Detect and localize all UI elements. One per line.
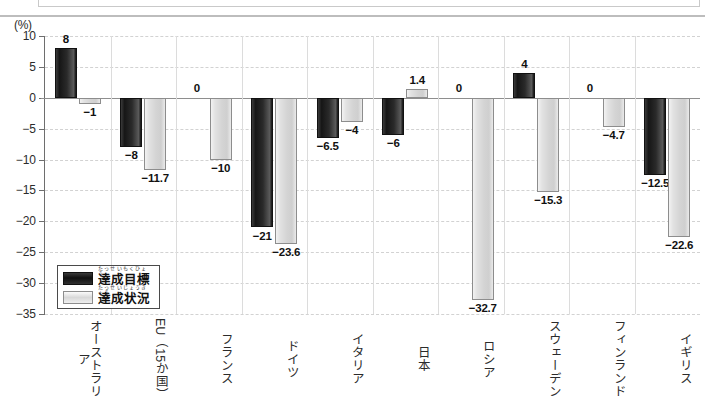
bar-value-label: −1 bbox=[64, 106, 116, 118]
category-separator bbox=[307, 36, 308, 314]
bar-value-label: −4.7 bbox=[588, 129, 640, 141]
x-axis-label-text: 日本 bbox=[416, 318, 429, 400]
x-axis-label-text: イタリア bbox=[350, 318, 363, 400]
bar-value-label: 8 bbox=[40, 33, 92, 45]
x-axis-label-4: イタリア bbox=[317, 318, 363, 400]
legend-swatch-status bbox=[63, 291, 93, 304]
y-axis-tick-label: −20 bbox=[2, 214, 36, 228]
bar-status[interactable] bbox=[144, 98, 166, 170]
x-axis-label-9: イギリス bbox=[644, 318, 690, 400]
y-axis-tick-label: −35 bbox=[2, 307, 36, 321]
bar-target[interactable] bbox=[382, 98, 404, 135]
chart-legend: たっせいもくひょう 達成目標 たっせいじょうきょう 達成状況 bbox=[57, 265, 160, 309]
legend-item-status: たっせいじょうきょう 達成状況 bbox=[63, 289, 154, 305]
category-separator bbox=[569, 36, 570, 314]
bar-value-label: −32.7 bbox=[457, 302, 509, 314]
category-separator bbox=[373, 36, 374, 314]
bar-target[interactable] bbox=[120, 98, 142, 147]
x-axis-label-1: EU（15か国） bbox=[120, 318, 166, 400]
x-axis-label-6: ロシア bbox=[448, 318, 494, 400]
legend-ruby-target: たっせいもくひょう bbox=[98, 266, 150, 276]
x-axis-label-3: ドイツ bbox=[251, 318, 297, 400]
bar-status[interactable] bbox=[472, 98, 494, 300]
bar-value-label: −10 bbox=[195, 162, 247, 174]
y-axis-tick-label: −15 bbox=[2, 183, 36, 197]
y-axis-tick-label: −30 bbox=[2, 276, 36, 290]
x-axis-label-5: 日本 bbox=[382, 318, 428, 400]
bar-target[interactable] bbox=[513, 73, 535, 98]
cut-off-title-box bbox=[38, 0, 700, 7]
x-axis-label-7: スウェーデン bbox=[513, 318, 559, 400]
bar-value-label: −11.7 bbox=[129, 172, 181, 184]
header-divider bbox=[0, 15, 705, 17]
x-axis-label-text: ドイツ bbox=[285, 318, 298, 400]
y-axis-tick-label: 0 bbox=[2, 91, 36, 105]
y-axis-tick-label: −10 bbox=[2, 153, 36, 167]
category-separator bbox=[504, 36, 505, 314]
x-axis-label-text: ロシア bbox=[481, 318, 494, 400]
category-separator bbox=[635, 36, 636, 314]
x-axis-label-0: オーストラリア bbox=[55, 318, 101, 400]
y-axis-tick-label: −25 bbox=[2, 245, 36, 259]
bar-status[interactable] bbox=[210, 98, 232, 160]
bar-value-label: −6 bbox=[367, 137, 419, 149]
x-axis-label-8: フィンランド bbox=[579, 318, 625, 400]
bar-status[interactable] bbox=[668, 98, 690, 238]
bar-target[interactable] bbox=[644, 98, 666, 175]
x-axis-label-text: フランス bbox=[219, 318, 232, 400]
bar-value-label: −23.6 bbox=[260, 246, 312, 258]
legend-ruby-status: たっせいじょうきょう bbox=[98, 285, 150, 295]
bar-value-label: 0 bbox=[171, 82, 223, 94]
legend-swatch-target bbox=[63, 272, 93, 285]
bar-value-label: −4 bbox=[326, 124, 378, 136]
y-axis-tick-label: 5 bbox=[2, 60, 36, 74]
x-axis-label-text: スウェーデン bbox=[547, 318, 560, 400]
bar-status[interactable] bbox=[603, 98, 625, 127]
bar-value-label: 0 bbox=[433, 82, 485, 94]
x-axis-label-text: EU（15か国） bbox=[154, 318, 167, 400]
bar-target[interactable] bbox=[251, 98, 273, 228]
bar-value-label: −22.6 bbox=[653, 239, 705, 251]
bar-status[interactable] bbox=[341, 98, 363, 123]
legend-label-status: たっせいじょうきょう 達成状況 bbox=[98, 289, 150, 306]
bar-status[interactable] bbox=[406, 89, 428, 98]
bar-value-label: −15.3 bbox=[522, 194, 574, 206]
x-axis-label-text: オーストラリア bbox=[75, 318, 101, 400]
bar-status[interactable] bbox=[275, 98, 297, 244]
bar-chart: (%) 1050−5−10−15−20−25−30−35 8−1−8−11.70… bbox=[0, 18, 705, 386]
bar-status[interactable] bbox=[537, 98, 559, 193]
bar-value-label: 0 bbox=[564, 82, 616, 94]
y-axis-tick-label: −5 bbox=[2, 122, 36, 136]
y-axis-tick-label: 10 bbox=[2, 29, 36, 43]
x-axis-label-text: フィンランド bbox=[612, 318, 625, 400]
x-axis-label-2: フランス bbox=[186, 318, 232, 400]
bar-status[interactable] bbox=[79, 98, 101, 104]
bar-target[interactable] bbox=[55, 48, 77, 97]
category-separator bbox=[242, 36, 243, 314]
gridline bbox=[45, 314, 700, 315]
x-axis-label-text: イギリス bbox=[678, 318, 691, 400]
bar-value-label: −6.5 bbox=[302, 140, 354, 152]
bar-value-label: 4 bbox=[498, 58, 550, 70]
